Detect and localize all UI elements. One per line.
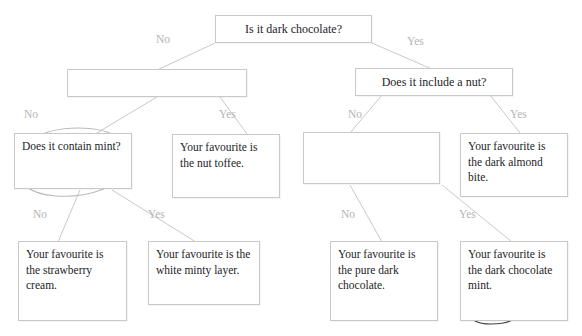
node-nut-toffee[interactable]: Your favourite is the nut toffee. (172, 134, 280, 198)
edge-label-left-mid-yes: Yes (219, 108, 236, 121)
node-right-l3-blank[interactable] (303, 132, 440, 184)
node-leaf-white-minty-layer[interactable]: Your favourite is the white minty layer. (148, 241, 260, 305)
edge-label-right-l3-yes: Yes (459, 208, 476, 221)
node-dark-almond-bite-text: Your favourite is the dark almond bite. (468, 140, 545, 183)
edge-label-right-mid-yes: Yes (510, 108, 527, 121)
node-dark-almond-bite[interactable]: Your favourite is the dark almond bite. (460, 133, 568, 197)
node-leaf-dark-chocolate-mint-text: Your favourite is the dark chocolate min… (468, 248, 552, 291)
node-left-mid-blank[interactable] (67, 69, 247, 97)
decision-tree-diagram: Is it dark chocolate? Does it include a … (0, 0, 582, 336)
edge-label-root-yes: Yes (407, 35, 424, 48)
node-does-it-contain-mint[interactable]: Does it contain mint? (14, 133, 132, 189)
node-leaf-dark-chocolate-mint[interactable]: Your favourite is the dark chocolate min… (460, 241, 568, 321)
edge-label-right-l3-no: No (341, 208, 355, 221)
edge-label-left-mid-no: No (24, 108, 38, 121)
node-right-mid-question[interactable]: Does it include a nut? (355, 68, 513, 96)
node-leaf-pure-dark-chocolate-text: Your favourite is the pure dark chocolat… (338, 248, 415, 291)
node-does-it-contain-mint-text: Does it contain mint? (22, 140, 121, 152)
edge-label-right-mid-no: No (348, 108, 362, 121)
node-leaf-pure-dark-chocolate[interactable]: Your favourite is the pure dark chocolat… (330, 241, 438, 321)
node-right-mid-question-text: Does it include a nut? (382, 75, 487, 89)
node-leaf-strawberry-cream-text: Your favourite is the strawberry cream. (26, 248, 103, 291)
edge-label-left-l3-yes: Yes (148, 208, 165, 221)
node-root-question[interactable]: Is it dark chocolate? (215, 15, 372, 43)
edge-label-left-l3-no: No (33, 208, 47, 221)
node-leaf-strawberry-cream[interactable]: Your favourite is the strawberry cream. (18, 241, 127, 321)
node-root-question-text: Is it dark chocolate? (245, 22, 342, 36)
edge-label-root-no: No (156, 33, 170, 46)
node-leaf-white-minty-layer-text: Your favourite is the white minty layer. (156, 248, 250, 276)
node-nut-toffee-text: Your favourite is the nut toffee. (180, 141, 257, 169)
